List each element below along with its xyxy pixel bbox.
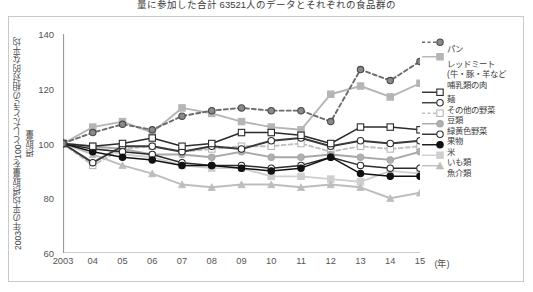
data-point-marker [437, 39, 443, 45]
legend-markers [420, 34, 448, 224]
legend-marker-緑黄色野菜 [422, 121, 443, 127]
legend-item-レッドミート: レッドミート [447, 59, 533, 70]
data-point-marker [437, 89, 443, 95]
legend-item-緑黄色野菜: 緑黄色野菜 [447, 126, 533, 137]
x-tick-08: 08 [207, 256, 217, 266]
figure-root: 量に参加した合計 63521人のデータとそれぞれの食品群の 2003年の平均摂取… [0, 0, 533, 292]
x-tick-04: 04 [88, 256, 98, 266]
x-tick-11: 11 [296, 256, 306, 266]
legend-item-いも類: いも類 [447, 157, 533, 168]
legend-item-麺: 麺 [447, 94, 533, 105]
legend-item-米: 米 [447, 147, 533, 158]
x-tick-06: 06 [147, 256, 157, 266]
data-point-marker [437, 142, 443, 148]
legend-marker-パン [422, 39, 443, 45]
x-tick-10: 10 [266, 256, 276, 266]
legend: パンレッドミート(牛・豚・羊など哺乳類の肉麺その他の野菜豆類緑黄色野菜果物米いも… [447, 44, 533, 178]
data-point-marker [437, 121, 443, 127]
x-tick-07: 07 [177, 256, 187, 266]
legend-item-魚介類: 魚介類 [447, 168, 533, 179]
legend-marker-その他の野菜 [422, 100, 443, 106]
x-tick-2003: 2003 [53, 256, 74, 266]
legend-marker-レッドミート [422, 54, 443, 60]
legend-marker-麺 [422, 89, 443, 95]
legend-item-パン: パン [447, 44, 533, 55]
x-tick-14: 14 [385, 256, 395, 266]
legend-marker-豆類 [422, 110, 443, 116]
legend-item-(牛・豚・羊など: (牛・豚・羊など [447, 69, 533, 80]
x-tick-13: 13 [355, 256, 365, 266]
data-point-marker [437, 131, 443, 137]
legend-item-哺乳類の肉: 哺乳類の肉 [447, 80, 533, 91]
legend-marker-果物 [422, 131, 443, 137]
x-axis-unit-label: (年) [434, 256, 449, 270]
x-tick-12: 12 [326, 256, 336, 266]
x-tick-09: 09 [236, 256, 246, 266]
data-point-marker [437, 100, 443, 106]
legend-marker-魚介類 [422, 162, 444, 169]
x-tick-15: 15 [415, 256, 425, 266]
legend-item-豆類: 豆類 [447, 115, 533, 126]
data-point-marker [437, 152, 443, 158]
legend-marker-いも類 [422, 152, 443, 158]
legend-item-果物: 果物 [447, 136, 533, 147]
legend-marker-米 [422, 142, 443, 148]
data-point-marker [437, 110, 443, 116]
legend-item-その他の野菜: その他の野菜 [447, 105, 533, 116]
x-tick-05: 05 [117, 256, 127, 266]
data-point-marker [437, 54, 443, 60]
